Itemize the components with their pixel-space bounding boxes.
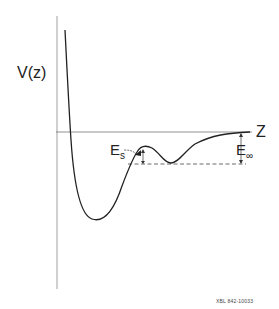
einf-subscript: ∞ — [246, 150, 253, 161]
y-axis-label: V(z) — [17, 64, 46, 82]
x-axis-label: Z — [256, 123, 266, 141]
einf-arrow-head-up — [239, 133, 243, 137]
es-main: E — [110, 141, 120, 158]
es-arrow-head-down — [141, 161, 145, 164]
es-arrow-head-up — [141, 149, 145, 153]
einf-label: E∞ — [236, 141, 253, 161]
einf-main: E — [236, 141, 246, 158]
potential-curve — [65, 30, 250, 220]
es-subscript: s — [120, 150, 125, 161]
es-label: Es — [110, 141, 125, 161]
figure-code: XBL 842-10033 — [216, 298, 253, 304]
